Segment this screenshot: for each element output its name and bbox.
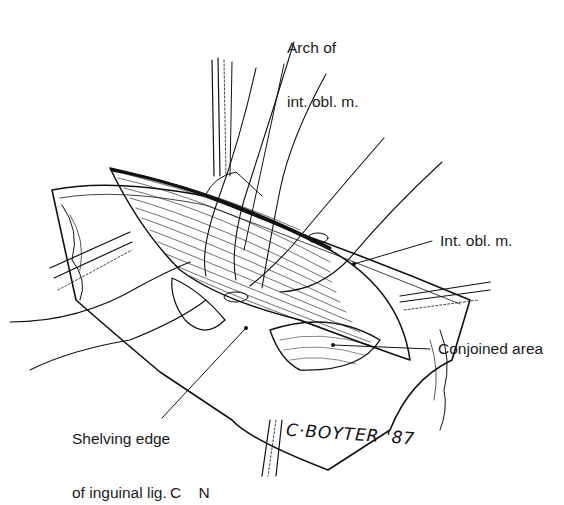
label-arch-line2: int. obl. m. [287, 93, 359, 111]
label-arch-line1: Arch of [287, 39, 359, 57]
label-shelving-line1: Shelving edge [72, 430, 170, 448]
label-shelving-line2: of inguinal lig. [72, 484, 170, 502]
label-arch-of-int-obl: Arch of int. obl. m. [287, 3, 359, 147]
label-conjoined-area: Conjoined area [438, 340, 543, 358]
label-shelving-edge: Shelving edge of inguinal lig. [72, 394, 170, 505]
label-int-obl-m: Int. obl. m. [440, 232, 512, 250]
caption-partial: C N [170, 484, 210, 502]
